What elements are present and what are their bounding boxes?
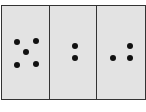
dot-icon — [72, 55, 78, 61]
dot-icon — [23, 49, 29, 55]
dot-panels-figure: 523 — [1, 5, 145, 100]
panel-1: 5 — [1, 5, 51, 100]
dot-icon — [33, 38, 39, 44]
dot-icon — [127, 55, 133, 61]
dot-icon — [110, 55, 116, 61]
panel-2: 2 — [49, 5, 98, 100]
dot-icon — [14, 62, 20, 68]
dot-icon — [14, 39, 20, 45]
panel-3: 3 — [96, 5, 146, 100]
dot-icon — [72, 43, 78, 49]
dot-icon — [127, 43, 133, 49]
dot-icon — [33, 61, 39, 67]
